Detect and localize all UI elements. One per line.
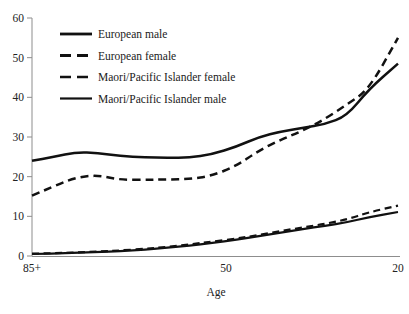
line-chart: 0102030405060 85+5020 Age European maleE…: [0, 0, 409, 314]
legend-label-3: Maori/Pacific Islander male: [98, 93, 226, 105]
y-tick-label: 0: [18, 250, 24, 262]
y-tick-label: 10: [13, 210, 25, 222]
y-tick-label: 30: [13, 131, 25, 143]
x-tick-label: 50: [220, 262, 232, 274]
series-maori-pacific-islander-female: [32, 206, 398, 254]
x-tick-label: 85+: [23, 262, 41, 274]
x-axis-ticks: 85+5020: [23, 262, 404, 274]
y-tick-label: 50: [13, 52, 25, 64]
x-axis-title: Age: [206, 286, 225, 299]
legend-label-0: European male: [98, 28, 167, 41]
x-tick-label: 20: [392, 262, 404, 274]
series-maori-pacific-islander-male: [32, 212, 398, 254]
y-tick-label: 60: [13, 12, 25, 24]
y-axis-ticks: 0102030405060: [13, 12, 33, 262]
y-tick-label: 20: [13, 171, 25, 183]
chart-legend: European maleEuropean femaleMaori/Pacifi…: [60, 28, 235, 105]
legend-label-2: Maori/Pacific Islander female: [98, 71, 235, 83]
chart-container: 0102030405060 85+5020 Age European maleE…: [0, 0, 409, 314]
legend-label-1: European female: [98, 50, 176, 63]
y-tick-label: 40: [13, 91, 25, 103]
